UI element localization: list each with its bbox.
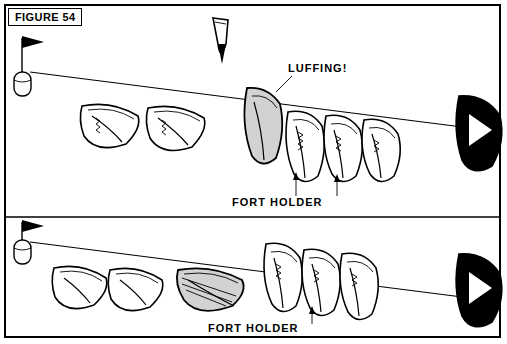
boat-upper-4 xyxy=(286,111,324,181)
boat-lower-4 xyxy=(264,243,302,311)
start-mark-lower xyxy=(14,220,44,264)
boat-lower-5 xyxy=(302,249,340,315)
boat-lower-6 xyxy=(340,253,378,319)
boat-upper-3-luffing xyxy=(244,88,282,164)
diagram-illustration xyxy=(0,0,507,344)
boat-upper-5 xyxy=(324,115,362,181)
boat-lower-1 xyxy=(52,266,107,308)
boat-upper-committee-dark xyxy=(456,96,502,171)
boat-upper-2 xyxy=(146,106,204,150)
figure-canvas: FIGURE 54 xyxy=(0,0,507,344)
boat-lower-2 xyxy=(108,268,163,310)
port-holder-label-upper: FORT HOLDER xyxy=(232,196,322,208)
luffing-callout: LUFFING! xyxy=(288,62,347,74)
port-holder-label-lower: FORT HOLDER xyxy=(208,322,298,334)
luffing-leader-line xyxy=(276,76,292,92)
boat-lower-committee-dark xyxy=(456,254,502,327)
boat-upper-6 xyxy=(362,119,400,181)
start-mark-upper xyxy=(14,36,44,96)
wind-arrow-icon xyxy=(213,18,228,64)
boat-lower-3-shaded xyxy=(177,268,244,310)
boat-upper-1 xyxy=(80,104,138,147)
